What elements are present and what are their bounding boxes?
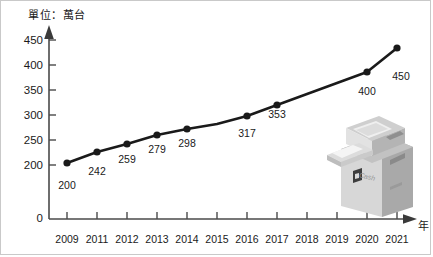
data-point-2017 — [273, 101, 280, 108]
x-axis-arrowhead — [403, 214, 417, 224]
data-point-2014 — [183, 125, 190, 132]
data-line-series — [67, 48, 397, 163]
data-point-2020 — [363, 68, 370, 75]
data-point-2011 — [93, 148, 100, 155]
data-point-2009 — [63, 159, 70, 166]
data-point-2021 — [393, 44, 400, 51]
data-point-2016 — [243, 112, 250, 119]
data-point-2012 — [123, 140, 130, 147]
x-axis-ticks — [67, 212, 397, 219]
y-axis-arrowhead — [44, 25, 54, 39]
chart-plot-area — [1, 1, 431, 255]
y-axis-ticks — [49, 40, 56, 165]
chart-frame: 單位：萬台 年 0 200 250 300 350 400 450 2009 2… — [0, 0, 431, 255]
data-point-2013 — [153, 131, 160, 138]
atm-machine-icon — [327, 116, 413, 217]
